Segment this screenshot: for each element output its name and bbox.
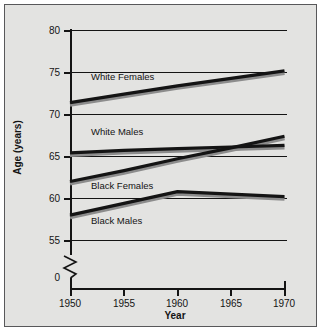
y-tick-marks	[64, 31, 70, 241]
x-tick-label-1960: 1960	[157, 298, 197, 309]
x-tick-label-1970: 1970	[264, 298, 304, 309]
y-tick-label-75: 75	[34, 67, 60, 78]
x-tick-label-1950: 1950	[50, 298, 90, 309]
y-tick-label-65: 65	[34, 151, 60, 162]
y-tick-label-80: 80	[34, 25, 60, 36]
y-tick-label-70: 70	[34, 109, 60, 120]
y-axis-title: Age (years)	[12, 113, 23, 183]
x-tick-label-1955: 1955	[104, 298, 144, 309]
shadow-black-males	[70, 194, 285, 218]
x-axis-title: Year	[60, 310, 290, 321]
axis-break-squiggle	[64, 256, 76, 278]
series-label-black-males: Black Males	[91, 215, 142, 226]
x-tick-marks	[71, 289, 285, 296]
y-tick-label-60: 60	[34, 193, 60, 204]
chart-figure: 80 75 70 65 60 55 0 1950 1955 1960 1965 …	[0, 0, 321, 331]
series-label-black-females: Black Females	[91, 180, 153, 191]
series-line-black-females	[70, 136, 285, 181]
series-label-white-females: White Females	[91, 71, 154, 82]
y-tick-label-55: 55	[34, 235, 60, 246]
y-tick-label-0: 0	[34, 272, 60, 283]
x-tick-label-1965: 1965	[211, 298, 251, 309]
series-label-white-males: White Males	[91, 126, 143, 137]
